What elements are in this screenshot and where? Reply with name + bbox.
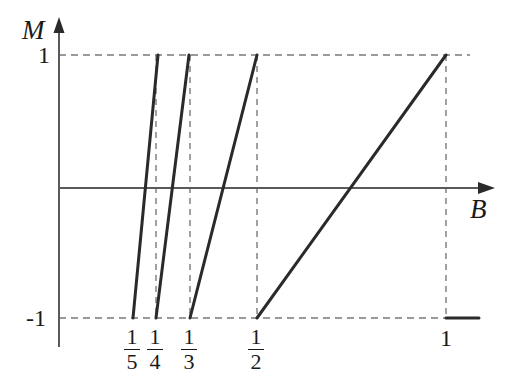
x-axis-arrowhead: [478, 182, 495, 194]
fraction-denominator: 4: [147, 350, 163, 373]
x-tick-label-one: 1: [440, 326, 452, 350]
branch-one-half-to-one: [257, 55, 446, 318]
fraction-numerator: 1: [181, 326, 197, 349]
x-tick-label-one-third: 1 3: [181, 326, 197, 374]
x-tick-label-one-fifth: 1 5: [124, 326, 140, 374]
reference-lines: [59, 55, 470, 318]
fraction-denominator: 5: [124, 350, 140, 373]
fraction-denominator: 2: [248, 350, 264, 373]
fraction-numerator: 1: [147, 326, 163, 349]
x-tick-label-one-half: 1 2: [248, 326, 264, 374]
fraction-numerator: 1: [248, 326, 264, 349]
branch-one-fourth-to-one-third: [156, 55, 189, 318]
x-tick-label-one-fourth: 1 4: [147, 326, 163, 374]
fraction-numerator: 1: [124, 326, 140, 349]
y-axis-label: M: [22, 17, 45, 44]
branch-one-third-to-one-half: [190, 55, 257, 318]
y-tick-label-minus-1: -1: [26, 306, 46, 330]
fraction-denominator: 3: [181, 350, 197, 373]
axes: [54, 17, 496, 347]
figure-container: M B 1 -1 1 5 1 4 1 3 1 2 1: [0, 0, 513, 386]
data-series-group: [133, 55, 479, 318]
y-axis-arrowhead: [54, 17, 65, 33]
y-tick-label-1: 1: [38, 43, 50, 67]
branch-one-fifth-to-one-fourth: [133, 55, 158, 318]
x-axis-label: B: [470, 196, 487, 223]
